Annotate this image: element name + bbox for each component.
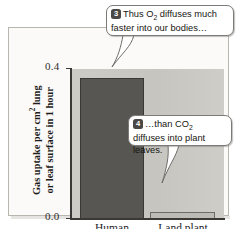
y-axis-title-line1-tail: lung (31, 85, 42, 107)
callout-step-3[interactable]: 3Thus O2 diffuses much faster into our b… (106, 5, 234, 36)
callout-3-line1: Thus O2 diffuses much (123, 9, 217, 19)
y-axis-title-line1: Gas uptake per cm2 lung (31, 85, 42, 195)
y-axis-title-line2: or leaf surface in 1 hour (43, 60, 56, 220)
bar-chart-figure: 0.4 0.0 Human Land plant Gas uptake per … (0, 0, 240, 229)
callout-4-line1-text: …than CO (145, 119, 189, 129)
x-category-label-land-plant: Land plant (145, 222, 221, 229)
y-axis-title: Gas uptake per cm2 lung or leaf surface … (28, 60, 56, 220)
callout-4-subscript: 2 (189, 124, 193, 131)
callout-4-badge: 4 (133, 119, 143, 129)
y-axis-title-superscript: 2 (30, 108, 38, 112)
y-tick-mark-top (66, 68, 72, 69)
y-axis-line (70, 68, 72, 220)
callout-3-badge: 3 (111, 9, 121, 19)
callout-3-line1-tail: diffuses much (157, 9, 217, 19)
y-axis-title-line1-text: Gas uptake per cm (31, 111, 42, 195)
callout-4-line1-tail: diffuses (133, 133, 165, 143)
y-tick-mark-bottom (66, 218, 72, 219)
callout-3-line2: faster into our bodies… (111, 23, 207, 33)
x-axis-line (70, 218, 225, 220)
callout-step-4[interactable]: 4…than CO2 diffuses into plant leaves. (128, 115, 232, 146)
callout-3-line1-text: Thus O (123, 9, 153, 19)
x-category-label-human: Human (80, 222, 144, 229)
